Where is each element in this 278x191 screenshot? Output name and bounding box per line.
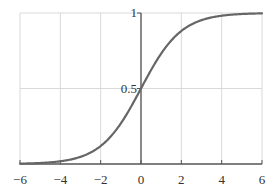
x-tick-label: 0 <box>138 172 145 187</box>
x-tick-label: 4 <box>218 172 225 187</box>
x-tick-label: 2 <box>178 172 185 187</box>
x-tick-label: −2 <box>94 172 108 187</box>
x-tick-labels: −6−4−20246 <box>13 172 266 187</box>
x-tick-label: 6 <box>259 172 266 187</box>
y-tick-labels: 0.51 <box>121 5 137 96</box>
y-tick-label: 1 <box>131 5 138 20</box>
x-tick-label: −6 <box>13 172 27 187</box>
sigmoid-chart: −6−4−20246 0.51 <box>0 0 278 191</box>
x-tick-label: −4 <box>53 172 67 187</box>
y-tick-label: 0.5 <box>121 81 137 96</box>
